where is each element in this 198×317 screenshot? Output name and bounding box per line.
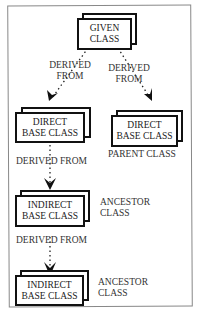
edge-label-left: DERIVED FROM (48, 60, 92, 82)
ancestor-class-caption-1: ANCESTOR CLASS (100, 197, 150, 219)
edge-label-mid2: DERIVED FROM (16, 235, 87, 246)
parent-class-caption: PARENT CLASS (108, 149, 176, 160)
edge-label-mid1: DERIVED FROM (16, 156, 87, 167)
edge-label-right: DERIVED FROM (107, 63, 151, 85)
node-label: CLASS (90, 34, 120, 45)
node-label: GIVEN (90, 23, 120, 34)
ancestor-class-caption-2: ANCESTOR CLASS (98, 277, 148, 299)
